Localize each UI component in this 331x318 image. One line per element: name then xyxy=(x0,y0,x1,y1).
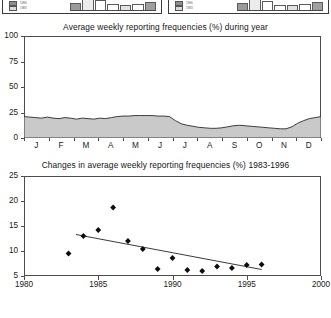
trend-x-tick-label: 1995 xyxy=(225,281,269,289)
legend-label: 1996 xyxy=(186,2,193,5)
seasonal-month-label: J xyxy=(175,142,195,150)
seasonal-month-label: J xyxy=(26,142,46,150)
top-panel-left-bars xyxy=(70,0,156,11)
legend-entry: 1996 xyxy=(175,1,221,5)
bar xyxy=(299,4,310,10)
trend-x-tick xyxy=(173,276,174,280)
seasonal-y-tick-label: 0 xyxy=(0,134,18,142)
seasonal-month-label: F xyxy=(51,142,71,150)
seasonal-area-chart: Average weekly reporting frequencies (%)… xyxy=(0,22,331,160)
legend-entry: 1996 xyxy=(9,1,55,5)
trend-y-tick-label: 20 xyxy=(0,197,18,205)
seasonal-month-label: N xyxy=(274,142,294,150)
seasonal-x-tick xyxy=(197,138,198,141)
trend-scatter-chart: Changes in average weekly reporting freq… xyxy=(0,160,331,318)
seasonal-month-label: S xyxy=(224,142,244,150)
top-panel-right-legend: 1996 1983 xyxy=(175,1,221,10)
trend-x-tick xyxy=(24,276,25,280)
top-cropped-panels: 1996 1983 1996 1983 xyxy=(0,0,331,16)
bar xyxy=(107,4,118,10)
seasonal-month-label: J xyxy=(150,142,170,150)
seasonal-y-tick-label: 75 xyxy=(0,58,18,66)
legend-entry: 1983 xyxy=(9,6,55,10)
trend-y-tick xyxy=(21,201,24,202)
bar xyxy=(274,5,285,10)
seasonal-x-tick xyxy=(24,138,25,141)
trend-y-tick-label: 5 xyxy=(0,272,18,280)
trend-x-tick xyxy=(321,276,322,280)
seasonal-x-tick xyxy=(49,138,50,141)
top-panel-right-bars xyxy=(237,0,323,11)
bar xyxy=(132,4,143,10)
trend-y-tick-label: 25 xyxy=(0,172,18,180)
seasonal-y-tick xyxy=(21,36,24,37)
bar xyxy=(70,3,81,10)
figure-page: 1996 1983 1996 1983 xyxy=(0,0,331,318)
seasonal-y-tick xyxy=(21,62,24,63)
bar xyxy=(312,2,323,10)
seasonal-x-tick xyxy=(296,138,297,141)
seasonal-x-tick xyxy=(247,138,248,141)
trend-x-tick-label: 1980 xyxy=(2,281,46,289)
top-panel-right: 1996 1983 xyxy=(168,0,329,14)
seasonal-x-tick xyxy=(98,138,99,141)
trend-x-tick-label: 2000 xyxy=(299,281,331,289)
seasonal-plot-area xyxy=(24,36,321,138)
seasonal-x-tick xyxy=(123,138,124,141)
trend-x-tick xyxy=(247,276,248,280)
legend-label: 1983 xyxy=(186,7,193,10)
trend-x-tick-label: 1985 xyxy=(76,281,120,289)
trend-y-tick xyxy=(21,226,24,227)
trend-y-tick xyxy=(21,251,24,252)
seasonal-y-tick-label: 50 xyxy=(0,83,18,91)
top-panel-left: 1996 1983 xyxy=(2,0,162,14)
legend-swatch-icon xyxy=(9,6,17,11)
legend-entry: 1983 xyxy=(175,6,221,10)
seasonal-y-tick-label: 25 xyxy=(0,109,18,117)
seasonal-month-label: M xyxy=(76,142,96,150)
trend-y-tick-label: 10 xyxy=(0,247,18,255)
seasonal-chart-title: Average weekly reporting frequencies (%)… xyxy=(0,22,331,32)
seasonal-x-tick xyxy=(148,138,149,141)
bar xyxy=(145,2,156,10)
seasonal-y-tick xyxy=(21,113,24,114)
bar xyxy=(237,3,248,10)
seasonal-month-label: D xyxy=(299,142,319,150)
bar xyxy=(262,1,273,10)
seasonal-x-tick xyxy=(222,138,223,141)
top-panel-left-legend: 1996 1983 xyxy=(9,1,55,10)
seasonal-month-label: A xyxy=(101,142,121,150)
seasonal-x-tick xyxy=(272,138,273,141)
seasonal-month-label: M xyxy=(125,142,145,150)
seasonal-y-tick-label: 100 xyxy=(0,32,18,40)
bar xyxy=(249,0,260,10)
trend-plot-area xyxy=(24,176,321,276)
legend-label: 1996 xyxy=(20,2,27,5)
seasonal-y-tick xyxy=(21,87,24,88)
trend-chart-title: Changes in average weekly reporting freq… xyxy=(0,160,331,170)
seasonal-x-tick xyxy=(173,138,174,141)
seasonal-x-tick xyxy=(74,138,75,141)
trend-y-tick xyxy=(21,176,24,177)
seasonal-month-label: A xyxy=(200,142,220,150)
legend-label: 1983 xyxy=(20,7,27,10)
bar xyxy=(95,0,106,10)
trend-y-tick-label: 15 xyxy=(0,222,18,230)
bar xyxy=(82,0,93,10)
trend-x-tick-label: 1990 xyxy=(151,281,195,289)
bar xyxy=(287,5,298,10)
legend-swatch-icon xyxy=(175,6,183,11)
seasonal-x-tick xyxy=(321,138,322,141)
bar xyxy=(120,5,131,10)
trend-x-tick xyxy=(98,276,99,280)
seasonal-month-label: O xyxy=(249,142,269,150)
